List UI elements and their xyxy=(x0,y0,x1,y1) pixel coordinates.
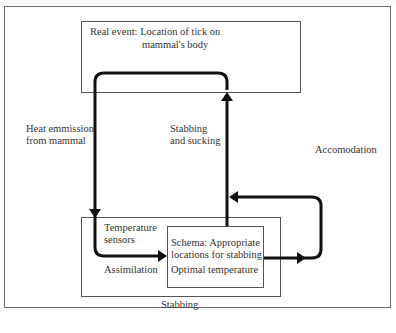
arrowhead-right-icon xyxy=(297,252,306,264)
arrowhead-down-icon xyxy=(89,209,101,218)
arrowhead-right-icon xyxy=(158,250,167,262)
arrowhead-left-icon xyxy=(229,191,238,203)
accommodation-arrow xyxy=(236,197,321,258)
heat-emission-arrow xyxy=(95,73,227,256)
arrowhead-up-icon xyxy=(221,92,233,101)
arrow-layer xyxy=(0,0,396,333)
